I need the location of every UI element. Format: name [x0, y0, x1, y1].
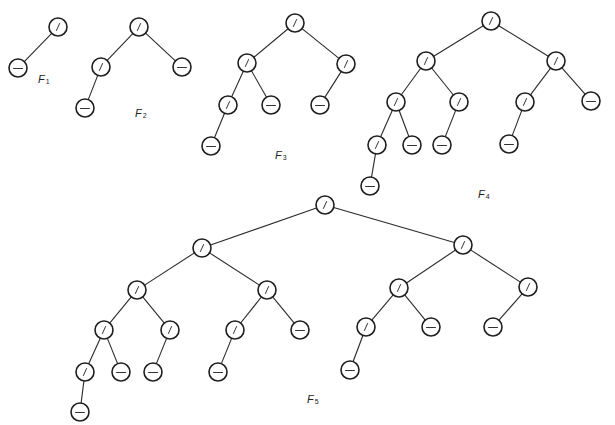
tree-label-f5: F5 [307, 394, 319, 405]
tree-edge [325, 72, 341, 98]
tree-edge [156, 338, 166, 363]
tree-label-main: F [478, 188, 485, 200]
tree-edge [372, 154, 376, 177]
tree-edge [432, 68, 454, 95]
leaf-node [433, 136, 451, 154]
tree-edge [251, 71, 266, 97]
leaf-node [76, 99, 94, 117]
tree-label-main: F [135, 107, 142, 119]
leaf-node [361, 177, 379, 195]
tree-edge [143, 297, 165, 323]
tree-edge [512, 110, 522, 135]
internal-node [387, 93, 405, 111]
tree-edge [372, 295, 393, 320]
fibonacci-trees-diagram [0, 0, 615, 425]
internal-node [390, 279, 408, 297]
edges-layer [24, 26, 585, 403]
tree-label-main: F [275, 149, 282, 161]
tree-label-subscript: 2 [143, 112, 147, 119]
tree-edge [401, 68, 420, 94]
internal-node [286, 14, 304, 32]
internal-node [368, 136, 386, 154]
tree-label-subscript: 1 [46, 78, 50, 85]
internal-node [258, 281, 276, 299]
tree-label-subscript: 3 [283, 154, 287, 161]
internal-node [219, 96, 237, 114]
leaf-node [403, 136, 421, 154]
leaf-node [484, 318, 502, 336]
tree-label-main: F [307, 393, 314, 405]
internal-node [337, 55, 355, 73]
internal-node [417, 52, 435, 70]
tree-label-subscript: 4 [486, 193, 490, 200]
nodes-layer [9, 12, 600, 421]
tree-edge [334, 208, 455, 243]
internal-node [547, 52, 565, 70]
tree-edge [471, 250, 521, 282]
tree-edge [434, 26, 484, 57]
internal-node [130, 18, 148, 36]
tree-edge [107, 338, 117, 363]
internal-node [357, 318, 375, 336]
tree-edge [399, 110, 409, 136]
tree-label-f1: F1 [38, 74, 50, 85]
tree-edge [302, 29, 339, 59]
tree-f4-nodes [361, 12, 600, 195]
leaf-node [209, 363, 227, 381]
tree-f1-edges [24, 33, 51, 61]
leaf-node [311, 96, 329, 114]
internal-node [238, 54, 256, 72]
internal-node [193, 239, 211, 257]
tree-edge [445, 110, 455, 136]
internal-node [454, 236, 472, 254]
leaf-node [71, 403, 89, 421]
internal-node [95, 321, 113, 339]
tree-edge [214, 113, 224, 137]
internal-node [128, 281, 146, 299]
leaf-node [422, 318, 440, 336]
internal-node [450, 93, 468, 111]
internal-node [76, 363, 94, 381]
internal-node [516, 93, 534, 111]
tree-edge [146, 33, 176, 61]
leaf-node [144, 363, 162, 381]
tree-edge [530, 68, 550, 95]
leaf-node [202, 137, 220, 155]
leaf-node [582, 92, 600, 110]
tree-edge [562, 68, 585, 94]
tree-label-main: F [38, 73, 45, 85]
internal-node [226, 321, 244, 339]
leaf-node [9, 59, 27, 77]
tree-label-f3: F3 [275, 150, 287, 161]
tree-edge [353, 335, 363, 361]
internal-node [519, 278, 537, 296]
tree-edge [232, 71, 244, 97]
leaf-node [291, 321, 309, 339]
tree-edge [499, 294, 522, 320]
tree-edge [210, 208, 316, 245]
tree-edge [254, 29, 288, 57]
tree-label-subscript: 5 [315, 398, 319, 405]
leaf-node [112, 363, 130, 381]
tree-edge [145, 253, 195, 285]
tree-edge [210, 253, 260, 285]
tree-edge [89, 338, 101, 364]
tree-edge [499, 26, 549, 57]
tree-edge [406, 250, 455, 283]
leaf-node [262, 96, 280, 114]
tree-f2-nodes [76, 18, 191, 117]
internal-node [316, 196, 334, 214]
tree-edge [24, 33, 51, 61]
tree-f3-nodes [202, 14, 355, 155]
tree-edge [381, 110, 393, 137]
tree-edge [241, 297, 262, 323]
internal-node [49, 18, 67, 36]
leaf-node [500, 135, 518, 153]
internal-node [92, 58, 110, 76]
tree-edge [221, 338, 231, 363]
tree-edge [273, 297, 295, 323]
leaf-node [341, 361, 359, 379]
tree-edge [110, 297, 132, 323]
tree-label-f4: F4 [478, 189, 490, 200]
internal-node [482, 12, 500, 30]
